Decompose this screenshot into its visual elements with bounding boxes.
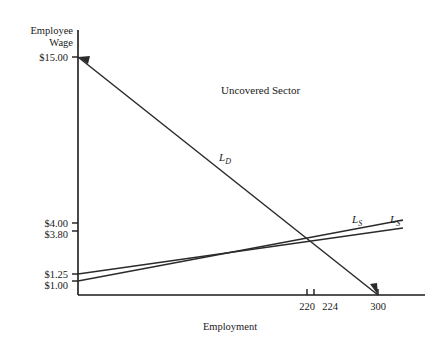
- y-tick-label-3-80: $3.80: [44, 229, 68, 240]
- x-tick-label-220: 220: [299, 301, 315, 312]
- x-tick-label-300: 300: [370, 301, 386, 312]
- y-tick-label-15: $15.00: [39, 52, 68, 63]
- supply-shifted-curve-label-subscript: S': [396, 219, 402, 228]
- labor-supply-shifted-curve: [78, 228, 403, 274]
- x-tick-label-224: 224: [322, 301, 339, 312]
- supply-shifted-curve-label: LS': [389, 213, 402, 228]
- demand-curve-label: LD: [218, 151, 231, 166]
- demand-curve-arrow-start: [78, 56, 90, 64]
- supply-shifted-curve-label-base: L: [389, 213, 396, 225]
- supply-curve-label: LS: [351, 213, 362, 228]
- demand-curve-label-subscript: D: [224, 157, 231, 166]
- y-tick-label-4: $4.00: [44, 218, 68, 229]
- x-axis-title: Employment: [203, 321, 257, 332]
- y-axis-title-line1: Employee: [30, 25, 73, 36]
- y-axis-title-line2: Wage: [49, 37, 73, 48]
- figure-container: Employee Wage $15.00 $4.00 $3.80 $1.25 $…: [0, 0, 444, 342]
- supply-curve-label-subscript: S: [358, 219, 362, 228]
- uncovered-sector-annotation: Uncovered Sector: [221, 84, 300, 96]
- supply-curve-label-base: L: [351, 213, 358, 225]
- y-tick-label-1: $1.00: [44, 280, 68, 291]
- uncovered-sector-labor-market-chart: Employee Wage $15.00 $4.00 $3.80 $1.25 $…: [0, 0, 444, 342]
- demand-curve-label-base: L: [218, 151, 225, 163]
- y-tick-label-1-25: $1.25: [44, 269, 68, 280]
